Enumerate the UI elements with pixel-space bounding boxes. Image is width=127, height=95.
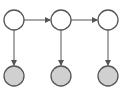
hidden-node-h1 bbox=[4, 10, 24, 30]
hidden-node-h3 bbox=[98, 10, 118, 30]
observed-node-o1 bbox=[4, 66, 24, 86]
hmm-diagram bbox=[0, 0, 127, 95]
observed-node-o2 bbox=[51, 66, 71, 86]
observed-node-o3 bbox=[98, 66, 118, 86]
hidden-node-h2 bbox=[51, 10, 71, 30]
